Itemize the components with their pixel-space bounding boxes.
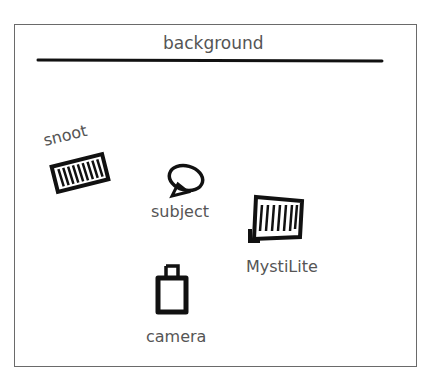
mystilite-label: MystiLite <box>246 257 318 276</box>
background-line <box>34 55 386 65</box>
subject-label: subject <box>151 202 209 221</box>
camera-icon <box>152 262 192 322</box>
subject-icon <box>160 158 210 202</box>
mystilite-icon <box>244 193 308 247</box>
snoot-icon <box>48 150 112 196</box>
camera-label: camera <box>146 327 206 346</box>
background-label: background <box>163 33 264 53</box>
